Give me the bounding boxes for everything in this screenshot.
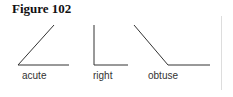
acute-angle (18, 25, 69, 65)
obtuse-label: obtuse (148, 70, 178, 81)
right-label: right (93, 70, 112, 81)
obtuse-angle (134, 25, 210, 65)
acute-label: acute (22, 70, 46, 81)
right-angle (94, 25, 128, 65)
angle-diagram (0, 0, 233, 97)
